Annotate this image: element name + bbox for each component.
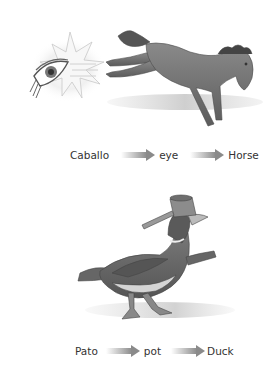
horse-icon (106, 31, 253, 126)
keyword: pot (144, 345, 161, 357)
duck-illustration (0, 185, 274, 335)
spanish-word: Caballo (70, 149, 109, 161)
arrow-right-icon (190, 149, 224, 161)
duck-icon (78, 195, 216, 319)
english-word: Horse (228, 149, 259, 161)
mnemonic-chain-duck: Pato pot Duck (75, 345, 234, 357)
arrow-right-icon (106, 345, 140, 357)
horse-figure: Caballo eye Horse (0, 0, 274, 185)
duck-figure: Pato pot Duck (0, 185, 274, 370)
spanish-word: Pato (75, 345, 98, 357)
horse-illustration (0, 0, 274, 140)
arrow-right-icon (171, 345, 205, 357)
keyword: eye (159, 149, 178, 161)
english-word: Duck (207, 345, 234, 357)
horse-shadow (107, 94, 263, 110)
mnemonic-chain-horse: Caballo eye Horse (70, 149, 259, 161)
arrow-right-icon (121, 149, 155, 161)
